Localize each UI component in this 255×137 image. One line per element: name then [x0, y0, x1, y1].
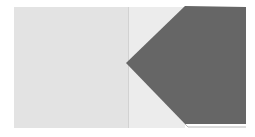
arrow-shadow-edge — [185, 124, 246, 127]
arrow-shape — [126, 6, 246, 124]
graphic-canvas — [0, 0, 255, 137]
left-arrow-pentagon-icon — [0, 0, 255, 137]
